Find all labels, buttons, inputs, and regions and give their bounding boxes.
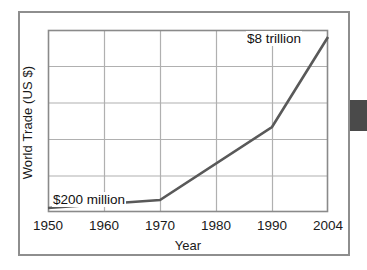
x-tick-label-1980: 1980 bbox=[189, 218, 243, 233]
plot-area-background bbox=[48, 30, 328, 212]
x-tick-label-1970: 1970 bbox=[133, 218, 187, 233]
y-axis-title: World Trade (US $) bbox=[20, 33, 35, 213]
x-tick-label-1960: 1960 bbox=[77, 218, 131, 233]
x-tick-label-2004: 2004 bbox=[301, 218, 355, 233]
annotation-200-million: $200 million bbox=[52, 192, 126, 207]
x-axis-title: Year bbox=[48, 238, 328, 253]
annotation-8-trillion: $8 trillion bbox=[246, 31, 302, 46]
x-tick-label-1950: 1950 bbox=[21, 218, 75, 233]
x-tick-label-1990: 1990 bbox=[245, 218, 299, 233]
